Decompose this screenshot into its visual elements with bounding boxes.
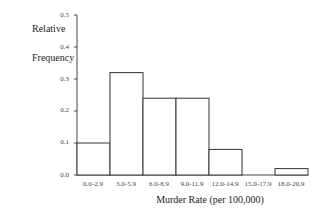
bar-0.0-2.9 <box>77 143 110 175</box>
bar-9.0-11.9 <box>176 98 209 175</box>
x-axis-label: Murder Rate (per 100,000) <box>110 194 310 205</box>
bar-6.0-8.9 <box>143 98 176 175</box>
bar-12.0-14.9 <box>209 149 242 175</box>
bar-3.0-5.9 <box>110 73 143 175</box>
histogram-chart: Relative Frequency 0.0 0.1 0.2 0.3 0.4 0… <box>0 0 328 218</box>
bar-18.0-20.9 <box>275 169 308 175</box>
x-tick-label: 18.0-20.9 <box>271 180 311 188</box>
